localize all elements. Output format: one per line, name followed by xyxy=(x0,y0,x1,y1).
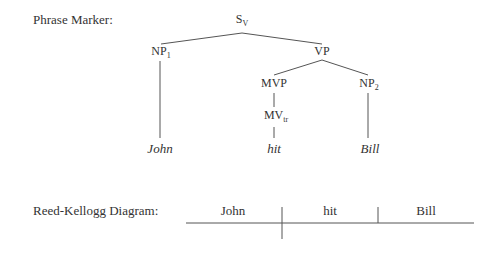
node-np2: NP2 xyxy=(359,76,378,92)
rk-subject: John xyxy=(221,203,246,219)
word-john: John xyxy=(147,141,172,157)
rk-object: Bill xyxy=(416,203,436,219)
node-mvp: MVP xyxy=(261,76,287,91)
word-hit: hit xyxy=(267,141,281,157)
tree-lines xyxy=(0,0,493,268)
node-mv: MVtr xyxy=(264,108,288,124)
reed-kellogg-label: Reed-Kellogg Diagram: xyxy=(33,203,158,219)
word-bill: Bill xyxy=(361,141,380,157)
rk-verb: hit xyxy=(323,203,337,219)
node-vp: VP xyxy=(314,44,329,59)
node-np1: NP1 xyxy=(151,44,170,60)
node-s: SV xyxy=(236,12,248,28)
